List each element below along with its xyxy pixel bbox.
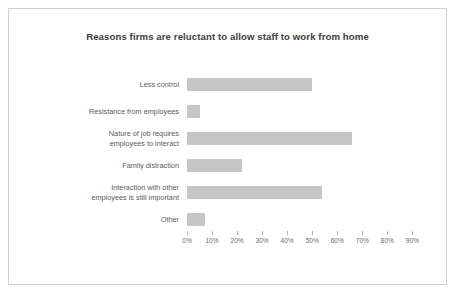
bar-rows: Less controlResistance from employeesNat… [9,71,446,233]
bar-row: Family distraction [9,152,446,179]
bar-category-label: Interaction with other employees is stil… [19,183,179,201]
tick-label: 40% [273,237,301,244]
tick-label: 50% [298,237,326,244]
plot-area: Less controlResistance from employeesNat… [9,9,446,284]
tick-label: 60% [323,237,351,244]
bar-row: Less control [9,71,446,98]
bar [187,159,242,172]
tick-mark [262,231,263,235]
tick-mark [412,231,413,235]
bar-category-label: Less control [19,80,179,89]
tick-label: 90% [398,237,426,244]
bar-row: Resistance from employees [9,98,446,125]
tick-mark [237,231,238,235]
bar-row: Nature of job requires employees to inte… [9,125,446,152]
bar-row: Interaction with other employees is stil… [9,179,446,206]
tick-label: 70% [348,237,376,244]
tick-label: 80% [373,237,401,244]
tick-mark [362,231,363,235]
tick-mark [387,231,388,235]
tick-label: 10% [198,237,226,244]
bar-track [187,206,205,233]
tick-label: 30% [248,237,276,244]
bar [187,186,322,199]
tick-label: 20% [223,237,251,244]
bar-track [187,179,322,206]
bar-category-label: Other [19,215,179,224]
bar-category-label: Resistance from employees [19,107,179,116]
tick-mark [337,231,338,235]
tick-label: 0% [173,237,201,244]
bar-row: Other [9,206,446,233]
bar-category-label: Family distraction [19,161,179,170]
bar [187,213,205,226]
bar-track [187,152,242,179]
tick-mark [287,231,288,235]
bar [187,78,312,91]
x-axis: 0%10%20%30%40%50%60%70%80%90% [9,231,446,261]
tick-mark [312,231,313,235]
tick-mark [187,231,188,235]
bar-track [187,71,312,98]
tick-mark [212,231,213,235]
bar-category-label: Nature of job requires employees to inte… [19,129,179,147]
chart-figure: Reasons firms are reluctant to allow sta… [8,8,447,285]
bar [187,132,352,145]
bar-track [187,98,200,125]
bar-track [187,125,352,152]
bar [187,105,200,118]
